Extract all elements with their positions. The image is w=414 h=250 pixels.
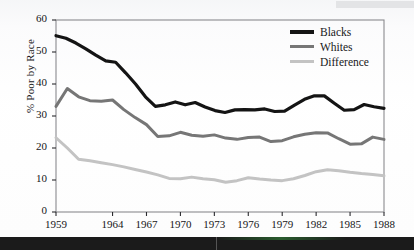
y-tick-label: 40 xyxy=(25,76,47,88)
legend-item-blacks: Blacks xyxy=(290,24,369,39)
legend-swatch-difference-icon xyxy=(290,60,314,64)
y-tick-label: 60 xyxy=(25,12,47,24)
y-tick-label: 20 xyxy=(25,140,47,152)
page-edge-green-streak xyxy=(216,237,346,240)
x-tick-label: 1988 xyxy=(364,218,404,230)
legend-item-whites: Whites xyxy=(290,39,369,54)
page-edge-seam xyxy=(216,237,217,250)
legend-swatch-blacks-icon xyxy=(290,30,314,34)
x-tick-label: 1959 xyxy=(36,218,76,230)
y-tick-label: 0 xyxy=(25,204,47,216)
legend-label-whites: Whites xyxy=(320,41,353,53)
y-tick-label: 50 xyxy=(25,44,47,56)
y-tick-label: 30 xyxy=(25,108,47,120)
legend-label-blacks: Blacks xyxy=(320,26,351,38)
page-edge-band-bottom xyxy=(0,237,414,250)
y-tick-label: 10 xyxy=(25,172,47,184)
legend-swatch-whites-icon xyxy=(290,45,314,49)
figure-canvas: % Poor by Race 0102030405060 19591964196… xyxy=(0,0,414,250)
chart-legend: Blacks Whites Difference xyxy=(290,24,369,69)
legend-label-difference: Difference xyxy=(320,56,369,68)
legend-item-difference: Difference xyxy=(290,54,369,69)
